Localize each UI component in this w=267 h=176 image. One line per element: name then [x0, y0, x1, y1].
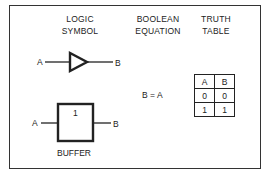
truth-table: A B 0 0 1 1: [194, 74, 235, 117]
buffer-caption: BUFFER: [57, 148, 91, 158]
truth-table-header-row: A B: [195, 75, 235, 89]
triangle-output-label: B: [115, 58, 121, 68]
cell: 0: [215, 89, 235, 103]
rect-qualifier: 1: [73, 108, 78, 118]
cell: 1: [215, 103, 235, 117]
cell: 0: [195, 89, 215, 103]
truth-table-row: 0 0: [195, 89, 235, 103]
column-header: A: [195, 75, 215, 89]
buffer-triangle-icon: [70, 53, 87, 71]
rect-output-label: B: [113, 119, 119, 129]
column-header: B: [215, 75, 235, 89]
triangle-input-label: A: [37, 57, 43, 67]
boolean-equation: B = A: [142, 90, 163, 100]
cell: 1: [195, 103, 215, 117]
rect-input-label: A: [32, 118, 38, 128]
truth-table-row: 1 1: [195, 103, 235, 117]
